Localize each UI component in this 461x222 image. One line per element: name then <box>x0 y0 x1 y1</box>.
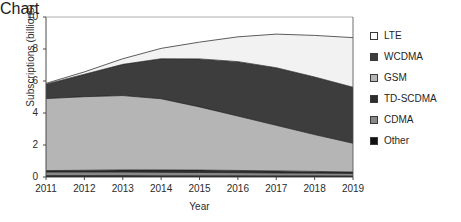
legend-swatch-icon <box>370 137 378 145</box>
legend-item-lte[interactable]: LTE <box>370 30 402 41</box>
x-tick-label: 2013 <box>103 183 143 194</box>
legend-swatch-icon <box>370 95 378 103</box>
legend-label: TD-SCDMA <box>384 93 437 104</box>
legend-label: LTE <box>384 30 402 41</box>
y-tick-label: 6 <box>12 75 38 86</box>
x-tick-label: 2015 <box>180 183 220 194</box>
x-tick-label: 2017 <box>256 183 296 194</box>
x-axis-title: Year <box>46 201 353 212</box>
legend-item-other[interactable]: Other <box>370 135 409 146</box>
legend-item-wcdma[interactable]: WCDMA <box>370 51 423 62</box>
legend-label: Other <box>384 135 409 146</box>
y-tick-label: 4 <box>12 107 38 118</box>
legend-item-cdma[interactable]: CDMA <box>370 114 413 125</box>
legend-label: CDMA <box>384 114 413 125</box>
x-tick-label: 2018 <box>295 183 335 194</box>
x-tick-label: 2014 <box>141 183 181 194</box>
stacked-area-chart: Subscriptions (billions) Year 0246810 20… <box>0 0 461 222</box>
x-tick-label: 2012 <box>64 183 104 194</box>
x-tick-label: 2011 <box>26 183 66 194</box>
x-tick-label: 2016 <box>218 183 258 194</box>
legend-item-gsm[interactable]: GSM <box>370 72 407 83</box>
legend-label: WCDMA <box>384 51 423 62</box>
legend-item-td-scdma[interactable]: TD-SCDMA <box>370 93 437 104</box>
legend-label: GSM <box>384 72 407 83</box>
legend-swatch-icon <box>370 74 378 82</box>
y-tick-label: 0 <box>12 171 38 182</box>
x-tick-label: 2019 <box>333 183 373 194</box>
y-tick-label: 10 <box>12 11 38 22</box>
legend-swatch-icon <box>370 53 378 61</box>
legend-swatch-icon <box>370 32 378 40</box>
y-tick-label: 8 <box>12 43 38 54</box>
legend-swatch-icon <box>370 116 378 124</box>
y-tick-label: 2 <box>12 139 38 150</box>
